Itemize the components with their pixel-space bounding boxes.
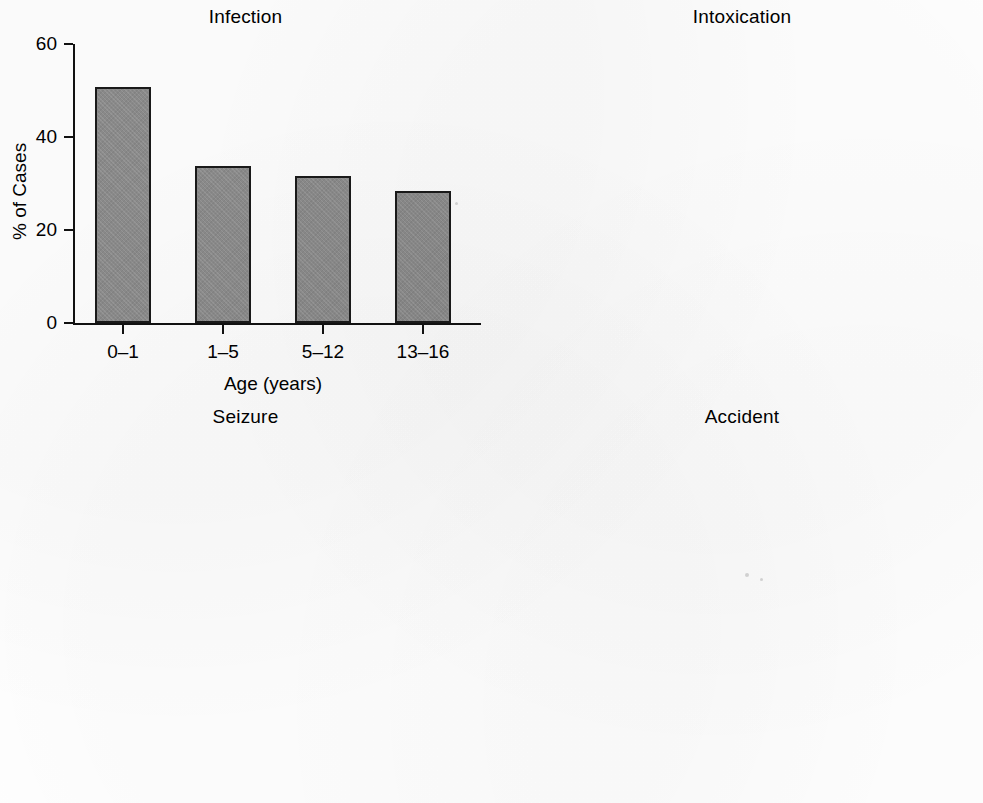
panel-accident: Accident 051015% of Cases0–11–55–1213–16…	[491, 400, 983, 803]
panel-infection: Infection 0204060% of Cases0–11–55–1213–…	[0, 0, 491, 400]
y-axis-tick-label: 0	[0, 312, 57, 334]
y-axis-line	[73, 44, 75, 325]
y-axis-tick-label: 60	[0, 33, 57, 55]
y-axis-tick	[64, 229, 73, 231]
panel-title: Infection	[0, 6, 491, 28]
x-axis-tick	[222, 325, 224, 334]
y-axis-tick	[64, 136, 73, 138]
y-axis-tick	[64, 322, 73, 324]
scan-speck	[455, 202, 458, 205]
x-axis-tick	[122, 325, 124, 334]
figure-panel-grid: Infection 0204060% of Cases0–11–55–1213–…	[0, 0, 983, 803]
y-axis-tick	[64, 43, 73, 45]
plot-area-infection: 0204060% of Cases0–11–55–1213–16Age (yea…	[73, 44, 473, 323]
bar	[95, 87, 151, 323]
bar	[295, 176, 351, 323]
scan-speck	[745, 573, 749, 577]
x-axis-title: Age (years)	[173, 373, 373, 395]
x-axis-line	[73, 323, 481, 325]
bar	[195, 166, 251, 323]
panel-intoxication: Intoxication 010203040% of Cases0–11–55–…	[491, 0, 983, 400]
x-axis-tick	[322, 325, 324, 334]
bar	[395, 191, 451, 323]
x-axis-tick	[422, 325, 424, 334]
panel-title: Accident	[501, 406, 983, 428]
panel-title: Intoxication	[501, 6, 983, 28]
scan-speck	[760, 578, 763, 581]
y-axis-title: % of Cases	[9, 142, 31, 239]
x-axis-tick-label: 13–16	[363, 341, 483, 363]
panel-seizure: Seizure 05101520% of Cases0–11–55–1213–1…	[0, 400, 491, 803]
panel-title: Seizure	[0, 406, 491, 428]
